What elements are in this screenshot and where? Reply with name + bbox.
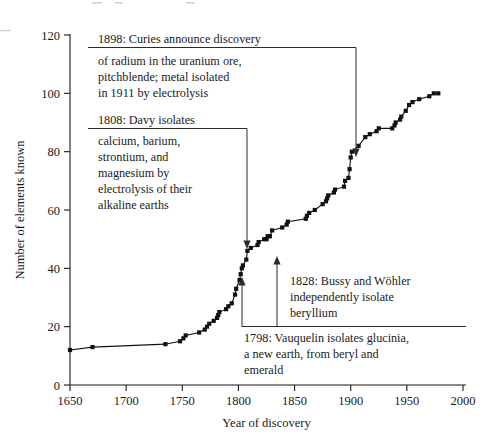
x-tick-label-2000: 2000: [451, 394, 476, 408]
y-tick-label-100: 100: [41, 87, 60, 101]
data-point: [356, 144, 360, 148]
data-point: [377, 126, 381, 130]
x-tick-label-1650: 1650: [58, 394, 83, 408]
data-point: [333, 187, 337, 191]
anno-1898-line-3: in 1911 by electrolysis: [98, 86, 208, 100]
data-point: [249, 246, 253, 250]
elements-discovery-line-chart: 020406080100120 165017001750180018501900…: [0, 0, 503, 445]
y-tick-label-80: 80: [48, 145, 61, 159]
data-point: [326, 193, 330, 197]
annotation-1898: 1898: Curies announce discovery of radiu…: [98, 32, 262, 100]
series-markers: [68, 91, 440, 352]
y-tick-label-0: 0: [54, 379, 60, 393]
data-point: [404, 109, 408, 113]
anno-1898-line-0: 1898: Curies announce discovery: [98, 32, 262, 46]
data-point: [436, 91, 440, 95]
data-point: [68, 348, 72, 352]
data-point: [239, 272, 243, 276]
anno-1808-line-4: electrolysis of their: [98, 182, 192, 196]
data-point: [394, 120, 398, 124]
y-tick-label-120: 120: [41, 29, 60, 43]
x-tick-label-1900: 1900: [338, 394, 363, 408]
data-point: [257, 240, 261, 244]
scan-artifact: [0, 2, 195, 31]
data-point: [313, 208, 317, 212]
y-axis-tick-labels: 020406080100120: [41, 29, 60, 393]
data-point: [197, 330, 201, 334]
data-point: [217, 310, 221, 314]
data-point: [307, 211, 311, 215]
data-point: [241, 263, 245, 267]
data-point: [270, 228, 274, 232]
x-axis-tick-labels: 16501700175018001850190019502000: [58, 394, 476, 408]
x-tick-label-1850: 1850: [282, 394, 307, 408]
x-tick-label-1950: 1950: [394, 394, 419, 408]
x-tick-label-1700: 1700: [114, 394, 139, 408]
data-point: [184, 333, 188, 337]
data-point: [432, 91, 436, 95]
data-point: [90, 345, 94, 349]
data-point: [417, 97, 421, 101]
data-point: [234, 287, 238, 291]
annotation-1808: 1808: Davy isolates calcium, barium, str…: [98, 113, 195, 212]
anno-1808-line-3: magnesium by: [98, 166, 170, 180]
data-point: [286, 220, 290, 224]
data-point: [268, 234, 272, 238]
series-line: [70, 93, 438, 350]
data-point: [363, 135, 367, 139]
data-point: [346, 176, 350, 180]
anno-1828-arrowhead: [273, 256, 280, 265]
anno-1798-line-0: 1798: Vauquelin isolates glucinia,: [244, 331, 409, 345]
annotation-1828: 1828: Bussy and Wöhler independently iso…: [290, 274, 411, 320]
anno-1828-line-0: 1828: Bussy and Wöhler: [290, 274, 411, 288]
y-tick-label-60: 60: [48, 204, 61, 218]
anno-1798-line-1: a new earth, from beryl and: [244, 347, 379, 361]
anno-1828-line-2: beryllium: [290, 306, 338, 320]
anno-1808-line-0: 1808: Davy isolates: [98, 113, 195, 127]
anno-1898-line-1: of radium in the uranium ore,: [98, 54, 242, 68]
x-axis-ticks: [70, 385, 463, 391]
series-elements-known: [68, 91, 440, 352]
y-axis-ticks: [64, 35, 70, 385]
anno-1808-line-1: calcium, barium,: [98, 134, 180, 148]
y-tick-label-40: 40: [48, 262, 61, 276]
data-point: [280, 225, 284, 229]
data-point: [399, 115, 403, 119]
y-axis-title: Number of elements known: [13, 140, 27, 280]
x-tick-label-1800: 1800: [226, 394, 251, 408]
data-point: [368, 132, 372, 136]
data-point: [342, 185, 346, 189]
data-point: [207, 322, 211, 326]
anno-1808-line-2: strontium, and: [98, 150, 168, 164]
data-point: [427, 94, 431, 98]
annotation-1798: 1798: Vauquelin isolates glucinia, a new…: [244, 331, 409, 377]
data-point: [347, 167, 351, 171]
anno-1828-line-1: independently isolate: [290, 290, 394, 304]
data-point: [349, 155, 353, 159]
y-tick-label-20: 20: [48, 320, 61, 334]
data-point: [163, 342, 167, 346]
x-tick-label-1750: 1750: [170, 394, 195, 408]
data-point: [244, 257, 248, 261]
data-point: [233, 292, 237, 296]
data-point: [410, 100, 414, 104]
x-axis-title: Year of discovery: [222, 416, 311, 430]
data-point: [230, 301, 234, 305]
anno-1798-line-2: emerald: [244, 363, 283, 377]
chart-figure: 020406080100120 165017001750180018501900…: [0, 0, 503, 445]
anno-1808-line-5: alkaline earths: [98, 198, 169, 212]
anno-1898-line-2: pitchblende; metal isolated: [98, 70, 229, 84]
